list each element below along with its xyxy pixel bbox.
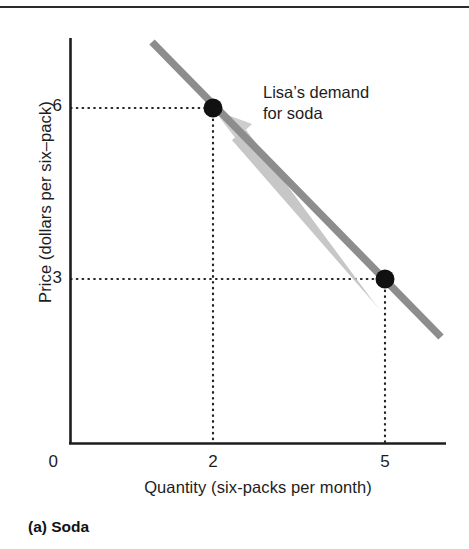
guide-lines xyxy=(71,108,385,443)
data-point-q5-p3[interactable] xyxy=(376,270,395,289)
data-point-q2-p6[interactable] xyxy=(204,99,223,118)
x-axis-title: Quantity (six-packs per month) xyxy=(70,478,446,497)
origin-tick-label-0: 0 xyxy=(34,452,58,472)
figure-caption: (a) Soda xyxy=(28,518,89,536)
x-tick-label-5: 5 xyxy=(371,452,399,472)
annotation-arrow xyxy=(214,110,382,312)
x-tick-label-2: 2 xyxy=(199,452,227,472)
y-axis-title: Price (dollars per six–pack) xyxy=(36,0,55,412)
y-tick-label-3: 3 xyxy=(38,268,62,288)
figure-panel-a-soda: Price (dollars per six–pack) Quantity (s… xyxy=(0,0,469,549)
y-tick-label-6: 6 xyxy=(38,96,62,116)
annotation-line-2: for soda xyxy=(263,103,369,124)
annotation-line-1: Lisa’s demand xyxy=(263,82,369,103)
demand-curve-annotation: Lisa’s demand for soda xyxy=(263,82,369,124)
